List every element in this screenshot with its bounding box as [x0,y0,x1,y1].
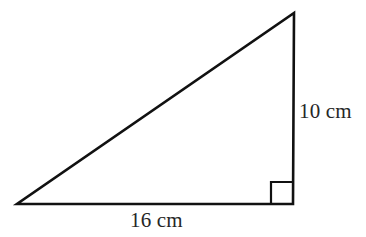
figure-canvas: 10 cm 16 cm [0,0,366,237]
dimension-label-base: 16 cm [130,210,183,231]
dimension-label-height: 10 cm [299,101,352,122]
